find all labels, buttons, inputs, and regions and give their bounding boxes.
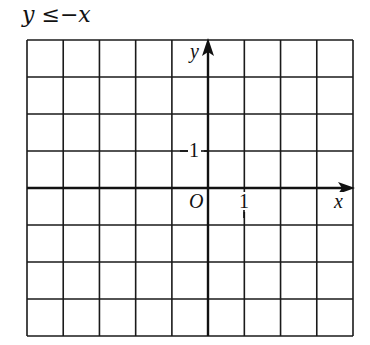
x-axis-label: x (333, 190, 343, 212)
coordinate-grid: y 1 O 1 x (0, 0, 370, 345)
x-tick-label-1: 1 (239, 190, 249, 212)
origin-label: O (189, 190, 203, 212)
y-tick-label-1: 1 (189, 139, 199, 161)
y-axis-label: y (188, 40, 199, 63)
